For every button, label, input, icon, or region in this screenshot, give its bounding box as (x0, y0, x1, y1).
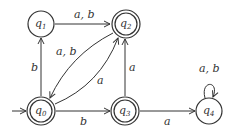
edge-label-q0-q2: a (97, 74, 104, 87)
edge-q4-q4 (204, 84, 214, 98)
edge-label-q3-q2: a (129, 61, 136, 74)
state-q1: q1 (28, 11, 54, 37)
state-q0: q0 (27, 97, 55, 125)
edge-label-q2-q0: a, b (56, 45, 77, 58)
edge-label-q0-q3: b (80, 115, 87, 128)
state-q3: q3 (111, 97, 139, 125)
edge-label-q0-q1: b (31, 61, 38, 74)
automaton-diagram: b a, b a, b a a b a a, b q0 q1 q2 q3 (0, 0, 236, 132)
state-q2: q2 (112, 10, 140, 38)
state-q4: q4 (196, 98, 222, 124)
edge-label-q1-q2: a, b (74, 8, 95, 21)
edge-label-q3-q4: a (164, 115, 171, 128)
edge-label-q4-q4: a, b (199, 62, 220, 75)
